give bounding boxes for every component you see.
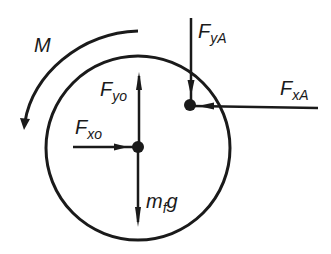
force-fxo-label: Fxo	[75, 116, 102, 142]
point-a	[184, 99, 196, 111]
force-weight-label: mfg	[146, 190, 178, 216]
free-body-diagram: M Fyo mfg Fxo FyA FxA	[0, 0, 331, 254]
force-weight-arrow	[135, 147, 141, 227]
moment-label: M	[34, 34, 51, 56]
force-fyo-label: Fyo	[100, 78, 127, 104]
force-fya-arrow	[188, 18, 195, 102]
point-o	[132, 141, 144, 153]
force-fxa-arrow	[193, 103, 318, 110]
force-fxo-arrow	[73, 144, 136, 151]
force-fyo-arrow	[136, 72, 142, 147]
force-fya-label: FyA	[198, 20, 227, 46]
force-fxa-label: FxA	[280, 77, 309, 103]
